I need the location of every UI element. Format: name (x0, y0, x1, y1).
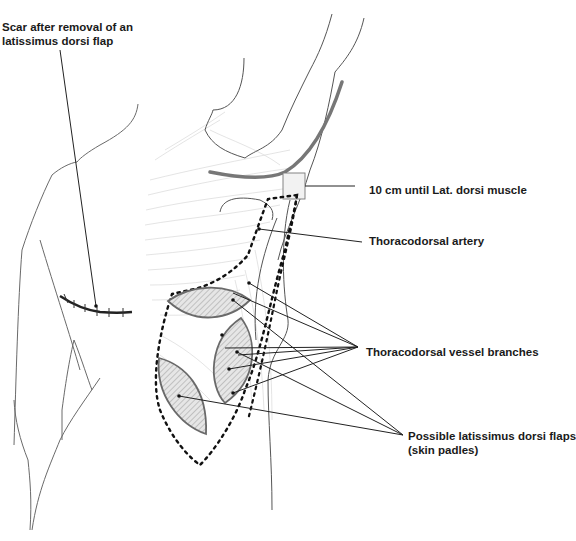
label-possible-flaps: Possible latissimus dorsi flaps (skin pa… (408, 429, 576, 457)
back-waist-outline (14, 400, 31, 530)
leader-scar (60, 50, 96, 306)
lateral-view-figure (145, 14, 364, 510)
axilla-crease (210, 82, 342, 177)
label-thoracodorsal-artery: Thoracodorsal artery (369, 234, 484, 248)
label-scar: Scar after removal of an latissimus dors… (2, 20, 133, 48)
forearm-outline (213, 58, 244, 110)
leader-artery (259, 229, 362, 242)
label-flaps-line1: Possible latissimus dorsi flaps (408, 429, 576, 443)
label-flaps-line2: (skin padles) (408, 443, 576, 457)
back-arm-lines (32, 340, 100, 530)
label-scar-line1: Scar after removal of an (2, 20, 133, 34)
torso-side-inner-outline (255, 218, 277, 340)
label-vessel-branches: Thoracodorsal vessel branches (366, 345, 539, 359)
back-neck-shoulder-outline (14, 104, 138, 445)
back-view-figure (14, 104, 138, 530)
label-distance: 10 cm until Lat. dorsi muscle (369, 183, 527, 197)
skin-paddle-middle (214, 318, 252, 403)
label-scar-line2: latissimus dorsi flap (2, 34, 133, 48)
skin-paddles (159, 288, 253, 434)
leaders-flaps (179, 300, 403, 435)
scapula-curve (220, 198, 273, 220)
